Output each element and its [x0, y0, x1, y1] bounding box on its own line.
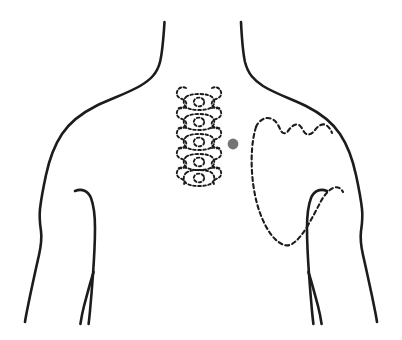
vertebra-3-foramen — [194, 138, 204, 147]
right-scapula-group — [252, 118, 343, 245]
vertebra-5-body — [184, 170, 215, 186]
vertebra-5-foramen — [194, 174, 204, 183]
spine-vertebrae-group — [177, 87, 221, 186]
body-map-svg[interactable] — [0, 0, 402, 340]
body-outline-group — [25, 22, 377, 324]
vertebra-4-foramen — [194, 158, 204, 167]
vertebra-2-body — [184, 114, 215, 130]
vertebra-3-body — [184, 134, 215, 150]
anatomical-diagram — [0, 0, 402, 340]
left-neck-shoulder-arm-path — [25, 22, 165, 322]
pain-point-marker[interactable] — [228, 139, 239, 150]
vertebra-4-body — [184, 154, 215, 170]
vertebra-1-body — [184, 94, 215, 110]
vertebra-2-foramen — [194, 118, 204, 127]
vertebra-1-foramen — [194, 98, 204, 107]
right-scapula-medial-border-path — [252, 127, 307, 245]
right-scapula-outline-path — [256, 118, 332, 134]
